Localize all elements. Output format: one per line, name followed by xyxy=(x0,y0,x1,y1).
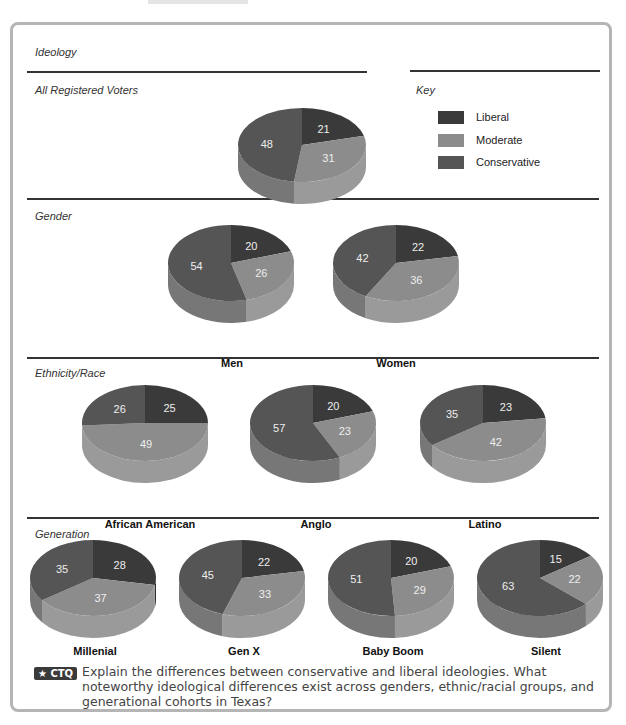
pie-label-millenial: Millenial xyxy=(15,645,175,657)
pie-label-anglo: Anglo xyxy=(236,518,396,530)
ctq-question: Explain the differences between conserva… xyxy=(82,664,602,709)
pie-label-african-american: African American xyxy=(70,518,230,530)
pie-label-gen-x: Gen X xyxy=(164,645,324,657)
pie-label-women: Women xyxy=(316,357,476,369)
pie-label-men: Men xyxy=(152,357,312,369)
pie-value-conservative: 63 xyxy=(502,580,514,592)
ctq-badge: ★ CTQ xyxy=(34,667,77,680)
pie-value-liberal: 15 xyxy=(550,553,562,565)
pie-label-silent: Silent xyxy=(466,645,626,657)
pie-label-baby-boom: Baby Boom xyxy=(313,645,473,657)
pie-label-latino: Latino xyxy=(405,518,565,530)
pie-chart: 152263 xyxy=(0,0,626,725)
pie-value-moderate: 22 xyxy=(568,573,580,585)
